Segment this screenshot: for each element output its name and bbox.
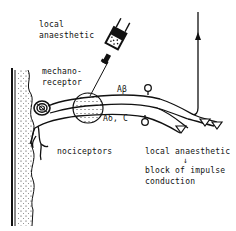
mechanoreceptor-label: mechano- receptor	[42, 66, 82, 88]
label-line: mechano-	[42, 66, 82, 77]
caption-line: conduction	[145, 176, 230, 187]
caption-line: block of impulse	[145, 165, 230, 176]
nociceptors-label: nociceptors	[57, 146, 112, 157]
arrow-down-icon: ↓	[145, 157, 230, 165]
nerve-block-diagram: local anaesthetic mechano- receptor Aβ A…	[0, 0, 236, 231]
arrow-up-icon	[195, 32, 201, 40]
fiber-a-delta-c-label: Aδ, C	[103, 113, 128, 124]
fiber-a-beta-label: Aβ	[117, 84, 127, 95]
ascending-pathway	[192, 12, 201, 115]
skin-layer	[12, 68, 34, 226]
anaesthetic-block-region	[73, 93, 103, 123]
label-line: receptor	[42, 77, 82, 88]
label-line: anaesthetic	[39, 30, 94, 41]
caption: local anaesthetic ↓ block of impulse con…	[145, 146, 230, 187]
local-anaesthetic-label: local anaesthetic	[39, 19, 94, 41]
mechanoreceptor-icon	[34, 101, 50, 115]
label-line: local	[39, 19, 94, 30]
